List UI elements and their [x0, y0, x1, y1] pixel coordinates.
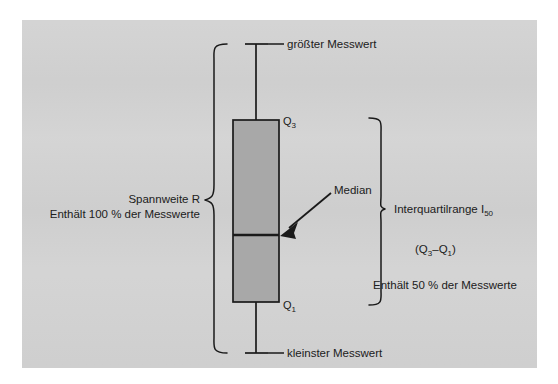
q3-label-text: Q: [283, 115, 292, 127]
iqr-title: Interquartilrange I50: [394, 202, 493, 217]
iqr-title-text: Interquartilrange I: [394, 203, 484, 215]
diagram-panel: größter Messwert kleinster Messwert Q3 Q…: [22, 20, 537, 368]
q3-label: Q3: [283, 114, 296, 129]
min-value-label: kleinster Messwert: [287, 346, 382, 361]
diagram-page: größter Messwert kleinster Messwert Q3 Q…: [0, 0, 558, 384]
q3-label-subscript: 3: [292, 121, 296, 130]
q1-label-subscript: 1: [292, 305, 296, 314]
iqr-formula-open: (Q: [415, 243, 428, 255]
q1-label-text: Q: [283, 299, 292, 311]
iqr-formula-dash: –Q: [432, 243, 447, 255]
q1-label: Q1: [283, 298, 296, 313]
max-value-label: größter Messwert: [287, 37, 376, 52]
range-detail: Enthält 100 % der Messwerte: [22, 207, 200, 222]
iqr-title-subscript: 50: [484, 209, 493, 218]
iqr-formula: (Q3–Q1): [415, 242, 456, 257]
left-brace: [205, 44, 227, 353]
right-brace: [369, 118, 385, 305]
median-arrow: [280, 193, 331, 239]
range-title: Spannweite R: [22, 192, 200, 207]
median-label: Median: [334, 183, 372, 198]
range-annotation: Spannweite R Enthält 100 % der Messwerte: [22, 192, 200, 222]
iqr-formula-close: ): [452, 243, 456, 255]
boxplot-box: [233, 120, 279, 302]
iqr-detail: Enthält 50 % der Messwerte: [373, 278, 517, 293]
